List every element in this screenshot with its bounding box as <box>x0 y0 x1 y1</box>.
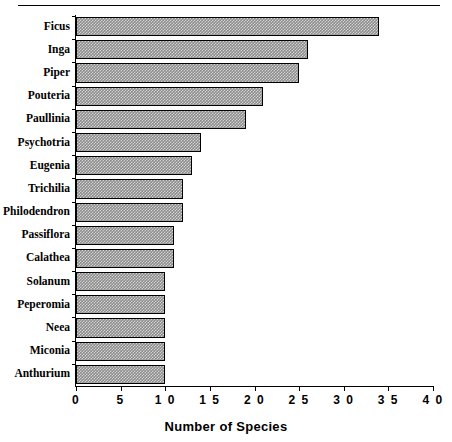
bar <box>76 226 174 245</box>
category-label: Peperomia <box>17 299 70 311</box>
category-label: Pouteria <box>28 90 70 102</box>
bar <box>76 17 379 36</box>
bar <box>76 179 183 198</box>
bar <box>76 318 165 337</box>
x-axis-tick <box>165 386 166 391</box>
x-axis-tick <box>255 386 256 391</box>
bar-row: Psychotria <box>76 131 433 154</box>
bar-row: Inga <box>76 38 433 61</box>
bar <box>76 40 308 59</box>
category-label: Paullinia <box>26 114 70 126</box>
bar-row: Passiflora <box>76 224 433 247</box>
x-axis-tick <box>344 386 345 391</box>
bar <box>76 63 299 82</box>
category-label: Eugenia <box>30 160 70 172</box>
x-axis-tick <box>299 386 300 391</box>
x-axis-tick-label: 1 5 <box>199 393 220 407</box>
category-label: Neea <box>46 322 70 334</box>
category-label: Passiflora <box>21 230 70 242</box>
x-axis-tick-label: 2 5 <box>289 393 310 407</box>
category-label: Calathea <box>26 253 70 265</box>
bar-row: Anthurium <box>76 363 433 386</box>
bar <box>76 110 246 129</box>
category-label: Psychotria <box>18 137 70 149</box>
category-label: Solanum <box>27 276 70 288</box>
bar <box>76 365 165 384</box>
x-axis-tick-label: 3 5 <box>378 393 399 407</box>
bar <box>76 342 165 361</box>
bar <box>76 87 263 106</box>
x-axis-tick-label: 4 0 <box>422 393 443 407</box>
bar-row: Trichilia <box>76 177 433 200</box>
bar <box>76 272 165 291</box>
x-axis-tick <box>76 386 77 391</box>
x-axis-tick-label: 5 <box>117 393 125 407</box>
bar-row: Piper <box>76 61 433 84</box>
x-axis-tick-label: 2 0 <box>244 393 265 407</box>
x-axis-tick <box>210 386 211 391</box>
bar-row: Solanum <box>76 270 433 293</box>
x-axis-tick <box>121 386 122 391</box>
category-label: Piper <box>43 67 70 79</box>
x-axis-tick <box>433 386 434 391</box>
bar-row: Miconia <box>76 340 433 363</box>
category-label: Philodendron <box>3 206 70 218</box>
bar-row: Ficus <box>76 15 433 38</box>
plot-area: FicusIngaPiperPouteriaPaulliniaPsychotri… <box>76 15 433 386</box>
bar <box>76 203 183 222</box>
bar-row: Neea <box>76 316 433 339</box>
bar <box>76 249 174 268</box>
bar-row: Philodendron <box>76 201 433 224</box>
bar-row: Pouteria <box>76 85 433 108</box>
bar-row: Eugenia <box>76 154 433 177</box>
bar <box>76 133 201 152</box>
x-axis-tick-label: 1 0 <box>155 393 176 407</box>
category-label: Inga <box>48 44 70 56</box>
category-label: Miconia <box>30 345 70 357</box>
category-label: Trichilia <box>28 183 70 195</box>
bar-row: Calathea <box>76 247 433 270</box>
bar-row: Paullinia <box>76 108 433 131</box>
x-axis-ticks: 051 01 52 02 53 03 54 0 <box>76 386 433 416</box>
bar-chart-figure: FicusIngaPiperPouteriaPaulliniaPsychotri… <box>0 0 452 442</box>
bar-rows: FicusIngaPiperPouteriaPaulliniaPsychotri… <box>76 15 433 386</box>
x-axis-tick-label: 3 0 <box>333 393 354 407</box>
bar <box>76 295 165 314</box>
bar-row: Peperomia <box>76 293 433 316</box>
category-label: Anthurium <box>14 369 70 381</box>
x-axis-tick-label: 0 <box>72 393 80 407</box>
top-divider-rule <box>18 5 440 6</box>
bar <box>76 156 192 175</box>
x-axis-tick <box>388 386 389 391</box>
x-axis-title: Number of Species <box>0 419 452 434</box>
category-label: Ficus <box>44 21 70 33</box>
